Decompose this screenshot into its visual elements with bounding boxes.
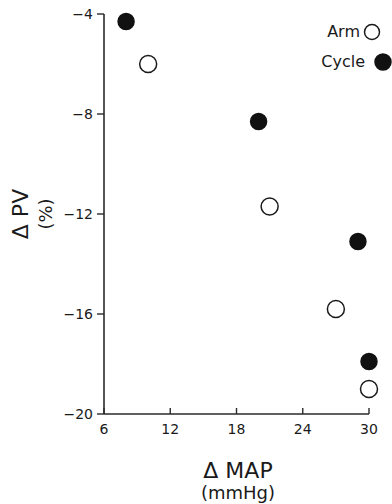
x-axis-units-label: (mmHg) <box>201 482 275 503</box>
legend-label-cycle: Cycle <box>321 52 365 71</box>
data-point-cycle <box>350 234 366 250</box>
data-point-cycle <box>361 354 377 370</box>
data-point-arm <box>361 381 378 398</box>
data-point-arm <box>261 198 278 215</box>
data-points <box>118 14 377 398</box>
x-axis-label: Δ MAP <box>203 458 272 483</box>
y-axis-title: Δ PV <box>8 189 33 239</box>
y-tick-label: −8 <box>72 106 93 122</box>
y-tick-label: −12 <box>63 206 93 222</box>
y-axis-units: (%) <box>35 198 56 229</box>
scatter-chart: Δ PV (%) Δ MAP (mmHg) Arm Cycle 61218243… <box>0 0 392 504</box>
legend-item-arm: Arm <box>327 22 379 41</box>
y-tick-label: −20 <box>63 406 93 422</box>
x-tick-label: 30 <box>360 421 378 437</box>
y-axis-label: Δ PV <box>8 189 33 239</box>
x-tick-label: 6 <box>100 421 109 437</box>
filled-circle-icon <box>375 54 391 70</box>
data-point-arm <box>327 301 344 318</box>
x-tick-label: 12 <box>161 421 179 437</box>
legend-item-cycle: Cycle <box>321 52 391 71</box>
y-tick-label: −4 <box>72 6 93 22</box>
x-tick-label: 18 <box>228 421 246 437</box>
x-tick-label: 24 <box>294 421 312 437</box>
legend: Arm Cycle <box>321 22 391 71</box>
data-point-cycle <box>118 14 134 30</box>
legend-label-arm: Arm <box>327 22 360 41</box>
data-point-arm <box>140 56 157 73</box>
open-circle-icon <box>365 25 380 40</box>
y-tick-label: −16 <box>63 306 93 322</box>
y-axis-units-label: (%) <box>35 198 56 229</box>
data-point-cycle <box>251 114 267 130</box>
